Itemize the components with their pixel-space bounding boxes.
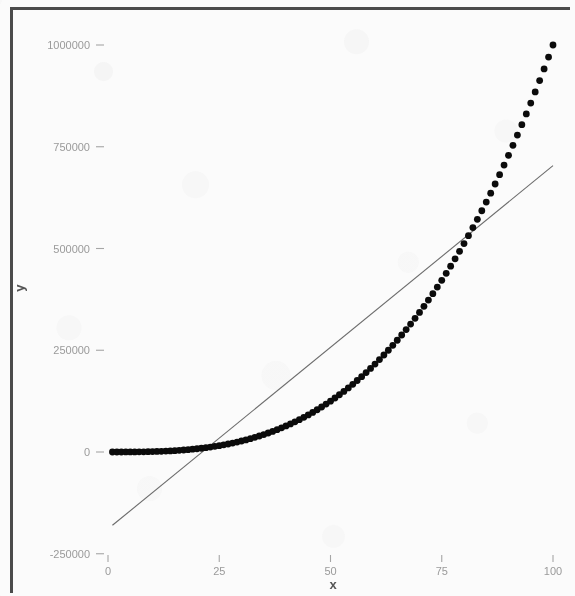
y-axis-title: y xyxy=(12,284,27,292)
x-axis-tick-labels: 0255075100 xyxy=(105,565,562,577)
scatter-point xyxy=(438,277,445,284)
scatter-point xyxy=(514,132,521,139)
scatter-point xyxy=(416,309,423,316)
scatter-point xyxy=(465,232,472,239)
scatter-point xyxy=(518,121,525,128)
scatter-point xyxy=(398,332,405,339)
scatter-point xyxy=(523,111,530,118)
x-axis-tick-label: 75 xyxy=(436,565,448,577)
scatter-point xyxy=(447,263,454,270)
y-axis-tick-label: 500000 xyxy=(53,243,90,255)
scatter-point xyxy=(532,89,539,96)
scatter-point xyxy=(545,54,552,61)
y-axis-tick-label: 750000 xyxy=(53,141,90,153)
scatter-point xyxy=(456,248,463,255)
x-axis-tick-label: 50 xyxy=(324,565,336,577)
x-axis-title: x xyxy=(329,577,337,592)
plot-canvas: 10000007500005000002500000-250000 025507… xyxy=(0,0,575,596)
scatter-point-group xyxy=(109,42,556,456)
x-axis-tick-label: 100 xyxy=(544,565,562,577)
x-axis-tick-marks xyxy=(108,555,553,562)
x-axis-tick-label: 25 xyxy=(213,565,225,577)
scatter-point xyxy=(510,142,517,149)
scatter-point xyxy=(478,207,485,214)
scatter-point xyxy=(483,199,490,206)
scatter-point xyxy=(470,224,477,231)
x-axis-tick-label: 0 xyxy=(105,565,111,577)
scatter-point xyxy=(443,270,450,277)
linear-fit-line xyxy=(112,166,553,526)
y-axis-tick-label: 0 xyxy=(84,446,90,458)
scatter-point xyxy=(550,42,557,49)
y-axis-tick-labels: 10000007500005000002500000-250000 xyxy=(47,39,90,560)
scatter-point xyxy=(429,290,436,297)
y-axis-tick-marks xyxy=(96,45,104,554)
scatter-plot-figure: 10000007500005000002500000-250000 025507… xyxy=(0,0,575,596)
scatter-point xyxy=(389,342,396,349)
scatter-point xyxy=(452,255,459,262)
scatter-point xyxy=(541,66,548,73)
scatter-point xyxy=(536,77,543,84)
scatter-point xyxy=(394,337,401,344)
y-axis-tick-label: 1000000 xyxy=(47,39,90,51)
scatter-point xyxy=(487,190,494,197)
scatter-point xyxy=(505,152,512,159)
scatter-point xyxy=(461,240,468,247)
scatter-point xyxy=(407,321,414,328)
scatter-point xyxy=(421,303,428,310)
scatter-point xyxy=(434,284,441,291)
scatter-point xyxy=(412,315,419,322)
scatter-point xyxy=(403,326,410,333)
scatter-point xyxy=(425,297,432,304)
scatter-point xyxy=(474,216,481,223)
scatter-point xyxy=(501,162,508,169)
y-axis-tick-label: -250000 xyxy=(50,548,90,560)
y-axis-tick-label: 250000 xyxy=(53,344,90,356)
scatter-point xyxy=(492,181,499,188)
scatter-point xyxy=(527,100,534,107)
scatter-point xyxy=(496,171,503,178)
